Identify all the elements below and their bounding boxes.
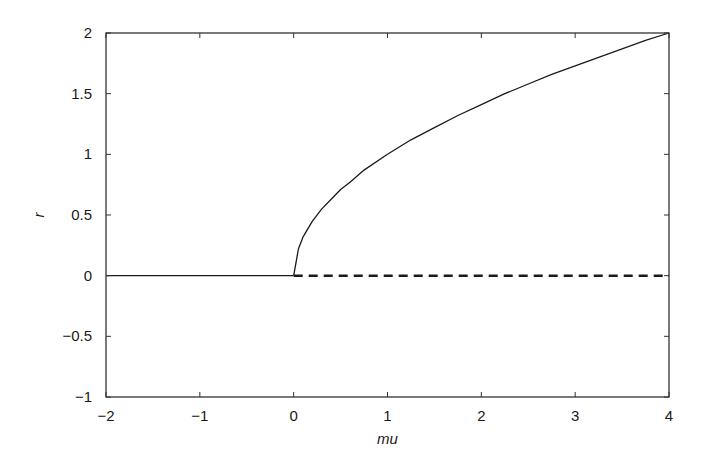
x-axis-label: mu (377, 430, 398, 447)
y-tick-label: −0.5 (62, 327, 92, 344)
series-layer (106, 33, 669, 276)
x-tick-label: −2 (97, 407, 114, 424)
y-tick-label: 1 (84, 145, 92, 162)
bifurcation-chart: −2−101234 −1−0.500.511.52 mu r (0, 0, 703, 473)
y-tick-label: −1 (75, 388, 92, 405)
stable-sqrt-branch-line (294, 33, 669, 276)
y-axis-label: r (30, 212, 47, 218)
x-tick-label: 0 (289, 407, 297, 424)
ticks-layer (106, 33, 669, 397)
x-tick-labels: −2−101234 (97, 407, 673, 424)
x-tick-label: 1 (383, 407, 391, 424)
y-tick-labels: −1−0.500.511.52 (62, 24, 92, 405)
x-tick-label: 3 (571, 407, 579, 424)
x-tick-label: 2 (477, 407, 485, 424)
x-tick-label: 4 (665, 407, 673, 424)
y-tick-label: 1.5 (71, 85, 92, 102)
y-tick-label: 2 (84, 24, 92, 41)
x-tick-label: −1 (191, 407, 208, 424)
y-tick-label: 0.5 (71, 206, 92, 223)
y-tick-label: 0 (84, 267, 92, 284)
plot-frame (106, 33, 669, 397)
